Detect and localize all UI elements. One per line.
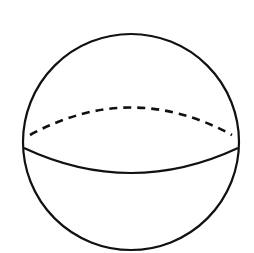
sphere-drawing xyxy=(0,0,254,253)
background xyxy=(0,0,254,253)
